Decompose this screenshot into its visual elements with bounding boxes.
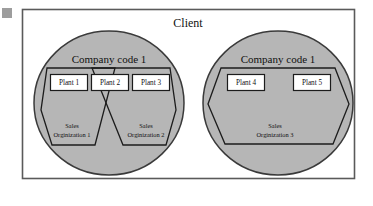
- client-label: Client: [173, 16, 203, 30]
- sales-organization-label-1-line2: Orginization 1: [54, 131, 91, 138]
- plant-label-1: Plant 1: [59, 79, 80, 87]
- client-structure-diagram: Client Company code 1 Plant 1 Plant 2 Pl…: [0, 0, 373, 206]
- plant-label-5: Plant 5: [302, 79, 323, 87]
- sales-organization-label-2-line2: Orginization 2: [128, 131, 165, 138]
- company-code-group-1: Company code 1 Plant 1 Plant 2 Plant 3 S…: [34, 31, 184, 175]
- company-code-label-1: Company code 1: [72, 53, 147, 65]
- plant-label-3: Plant 3: [141, 79, 162, 87]
- sales-organization-label-3-line1: Sales: [268, 122, 282, 129]
- plant-label-2: Plant 2: [100, 79, 121, 87]
- diagram-root: Client Company code 1 Plant 1 Plant 2 Pl…: [0, 0, 373, 206]
- company-code-label-2: Company code 1: [241, 53, 316, 65]
- plant-label-4: Plant 4: [236, 79, 257, 87]
- scan-artifact-square: [2, 8, 12, 18]
- company-code-group-2: Company code 1 Plant 4 Plant 5 Sales Org…: [203, 31, 353, 175]
- sales-organization-label-2-line1: Sales: [139, 122, 153, 129]
- sales-organization-label-1-line1: Sales: [65, 122, 79, 129]
- sales-organization-label-3-line2: Orginization 3: [257, 131, 294, 138]
